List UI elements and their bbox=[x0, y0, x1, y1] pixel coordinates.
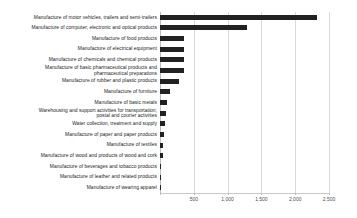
bar-series bbox=[160, 12, 329, 193]
bar-row[interactable] bbox=[160, 97, 329, 108]
bar-row[interactable] bbox=[160, 172, 329, 183]
bar-row[interactable] bbox=[160, 129, 329, 140]
bar[interactable] bbox=[160, 164, 161, 169]
bar[interactable] bbox=[160, 57, 184, 62]
category-label: Warehousing and support activities for t… bbox=[0, 108, 157, 119]
bar[interactable] bbox=[160, 185, 161, 190]
plot-area bbox=[160, 12, 329, 193]
tick-mark bbox=[295, 193, 296, 195]
bar-row[interactable] bbox=[160, 108, 329, 119]
tick-mark bbox=[261, 193, 262, 195]
category-label: Water collection, treatment and supply bbox=[0, 121, 157, 127]
tick-mark bbox=[194, 193, 195, 195]
bar[interactable] bbox=[160, 68, 184, 73]
category-label: Manufacture of electrical equipment bbox=[0, 46, 157, 52]
tick-mark bbox=[329, 193, 330, 195]
bar-row[interactable] bbox=[160, 76, 329, 87]
tick-mark bbox=[160, 193, 161, 195]
bar-row[interactable] bbox=[160, 118, 329, 129]
x-tick-label: 2,500 bbox=[323, 196, 336, 202]
bar[interactable] bbox=[160, 132, 164, 137]
bar-row[interactable] bbox=[160, 87, 329, 98]
category-label: Manufacture of rubber and plastic produc… bbox=[0, 78, 157, 84]
bar-row[interactable] bbox=[160, 65, 329, 76]
bar-row[interactable] bbox=[160, 150, 329, 161]
bar[interactable] bbox=[160, 153, 163, 158]
bar-row[interactable] bbox=[160, 182, 329, 193]
category-label: Manufacture of food products bbox=[0, 36, 157, 42]
bar[interactable] bbox=[160, 100, 167, 105]
tick-mark bbox=[228, 193, 229, 195]
gridline bbox=[329, 12, 330, 193]
bar-chart: Manufacture of motor vehicles, trailers … bbox=[0, 0, 357, 218]
category-label: Manufacture of chemicals and chemical pr… bbox=[0, 57, 157, 63]
bar[interactable] bbox=[160, 121, 165, 126]
bar[interactable] bbox=[160, 25, 247, 30]
x-tick-label: 500 bbox=[190, 196, 198, 202]
bar[interactable] bbox=[160, 36, 184, 41]
x-tick-label: 2,000 bbox=[289, 196, 302, 202]
x-tick-label: 1,000 bbox=[221, 196, 234, 202]
category-label: Manufacture of basic metals bbox=[0, 100, 157, 106]
bar[interactable] bbox=[160, 89, 170, 94]
bar-row[interactable] bbox=[160, 161, 329, 172]
category-label: Manufacture of paper and paper products bbox=[0, 132, 157, 138]
x-tick-label: 1,500 bbox=[255, 196, 268, 202]
bar-row[interactable] bbox=[160, 44, 329, 55]
bar-row[interactable] bbox=[160, 12, 329, 23]
bar[interactable] bbox=[160, 143, 163, 148]
bar[interactable] bbox=[160, 175, 161, 180]
category-label: Manufacture of wood and products of wood… bbox=[0, 153, 157, 159]
category-label: Manufacture of wearing apparel bbox=[0, 185, 157, 191]
category-axis-labels: Manufacture of motor vehicles, trailers … bbox=[0, 12, 157, 193]
bar-row[interactable] bbox=[160, 55, 329, 66]
category-label: Manufacture of furniture bbox=[0, 89, 157, 95]
x-axis-line bbox=[160, 193, 329, 194]
bar-row[interactable] bbox=[160, 23, 329, 34]
bar[interactable] bbox=[160, 79, 179, 84]
category-label: Manufacture of textiles bbox=[0, 142, 157, 148]
category-label: Manufacture of motor vehicles, trailers … bbox=[0, 15, 157, 21]
bar-row[interactable] bbox=[160, 33, 329, 44]
bar[interactable] bbox=[160, 15, 317, 20]
category-label: Manufacture of beverages and tobacco pro… bbox=[0, 164, 157, 170]
category-label: Manufacture of leather and related produ… bbox=[0, 174, 157, 180]
bar[interactable] bbox=[160, 111, 166, 116]
bar[interactable] bbox=[160, 47, 184, 52]
bar-row[interactable] bbox=[160, 140, 329, 151]
category-label: Manufacture of basic pharmaceutical prod… bbox=[0, 65, 157, 76]
category-label: Manufacture of computer, electronic and … bbox=[0, 25, 157, 31]
